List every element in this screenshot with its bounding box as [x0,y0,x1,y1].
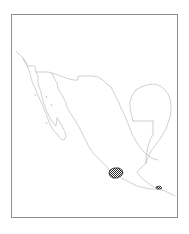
range-polygon-colima-michoacan [109,168,123,178]
gulf-of-mexico-coast [111,87,158,160]
map-graphic [0,0,189,234]
range-marker-chiapas-coast [156,186,162,189]
gulf-of-california-coast [52,73,109,169]
yucatan-peninsula [130,84,171,163]
guatemala-belize-border [133,121,156,188]
baja-california-peninsula [23,58,66,140]
usa-mexico-border-line [16,51,111,87]
map-figure: Mexico Outline map of Mexico with a shad… [0,0,189,234]
